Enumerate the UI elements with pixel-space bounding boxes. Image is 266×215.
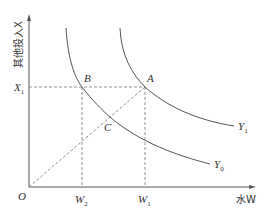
ray-oa [29, 87, 145, 187]
x1-tick-label: X1 [13, 81, 25, 96]
x-axis-title: 水W [236, 194, 256, 205]
isoquant-diagram: B A C O 其他投入X 水W X1 W2 W1 Y1 Y0 [0, 0, 266, 215]
y-axis-title: 其他投入X [12, 21, 24, 68]
origin-label: O [18, 190, 26, 202]
point-a-label: A [146, 72, 154, 84]
curve-y1-label: Y1 [238, 120, 248, 135]
curve-y0 [66, 28, 210, 164]
x-axis-arrow-icon [249, 185, 256, 189]
curve-y0-label: Y0 [214, 158, 224, 173]
w2-tick-label: W2 [75, 193, 88, 208]
w1-tick-label: W1 [138, 193, 151, 208]
y-axis-arrow-icon [27, 14, 31, 21]
point-c-label: C [104, 121, 112, 133]
point-b-label: B [84, 72, 91, 84]
curve-y1 [120, 28, 234, 126]
